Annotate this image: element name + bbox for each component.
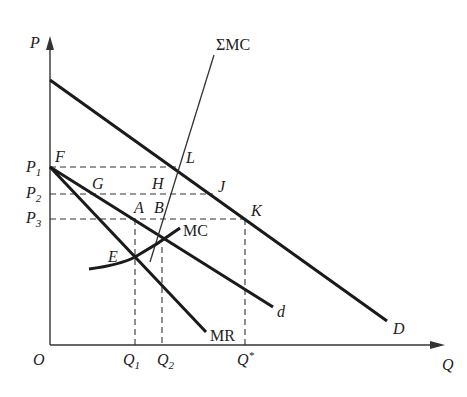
MC-curve-label: MC: [183, 222, 208, 239]
point-F-label: F: [54, 148, 65, 165]
origin-label: O: [33, 351, 45, 368]
p2-label: P2: [25, 184, 42, 204]
q2-label: Q2: [157, 351, 175, 371]
y-axis-label: P: [29, 34, 40, 51]
MR-curve-label: MR: [210, 327, 235, 344]
reference-lines: [50, 167, 245, 345]
sum-MC-curve-label: ΣMC: [216, 36, 250, 53]
x-axis-arrow-icon: [430, 341, 445, 349]
economics-diagram: P Q O P1 P2 P3 Q1 Q2 Q* D d MR MC ΣMC F …: [0, 0, 467, 397]
q1-label: Q1: [123, 351, 140, 371]
point-A-label: A: [133, 199, 144, 216]
qstar-label: Q*: [237, 349, 255, 368]
point-G-label: G: [92, 175, 104, 192]
point-K-label: K: [250, 202, 263, 219]
D-curve-label: D: [392, 320, 405, 337]
p1-label: P1: [25, 158, 41, 178]
point-H-label: H: [151, 175, 165, 192]
p3-label: P3: [25, 209, 42, 229]
point-J-label: J: [218, 178, 226, 195]
point-L-label: L: [185, 149, 195, 166]
point-E-label: E: [107, 248, 118, 265]
x-axis-label: Q: [442, 356, 454, 373]
point-B-label: B: [154, 199, 164, 216]
d-curve-label: d: [277, 303, 286, 320]
y-axis-arrow-icon: [46, 36, 54, 50]
